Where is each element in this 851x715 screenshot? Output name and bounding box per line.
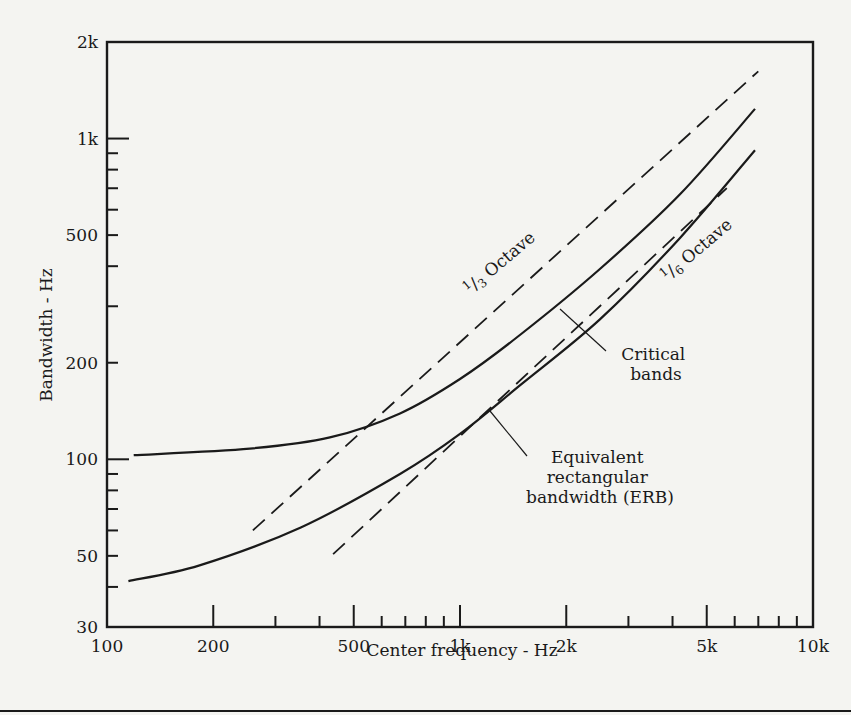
plot-frame <box>107 42 813 627</box>
y-tick-label: 500 <box>66 225 98 245</box>
annotation-erb: Equivalent rectangular bandwidth (ERB) <box>526 447 674 507</box>
y-tick-label: 50 <box>76 546 98 566</box>
x-tick-label: 200 <box>197 636 229 656</box>
x-tick-label: 500 <box>338 636 370 656</box>
x-tick-label: 100 <box>91 636 123 656</box>
x-tick-label: 2k <box>556 636 578 656</box>
axis-ticks <box>107 139 797 627</box>
y-tick-label: 2k <box>77 32 99 52</box>
y-tick-label: 30 <box>76 617 98 637</box>
axis-tick-labels: 1002005001k2k5k10k30501002005001k2k <box>66 32 830 656</box>
x-axis-label: Center frequency - Hz <box>366 640 557 660</box>
series-line <box>134 109 755 455</box>
y-tick-label: 200 <box>66 353 98 373</box>
svg-text:1/3 Octave: 1/3 Octave <box>459 226 540 299</box>
annotation-third-octave: 1/3 Octave <box>459 226 540 299</box>
x-tick-label: 5k <box>696 636 718 656</box>
y-tick-label: 1k <box>77 129 99 149</box>
y-tick-label: 100 <box>66 449 98 469</box>
series-line <box>253 71 758 530</box>
y-axis-label: Bandwidth - Hz <box>36 268 56 401</box>
x-tick-label: 10k <box>797 636 830 656</box>
critical-bands-leader <box>560 309 606 351</box>
erb-leader <box>490 411 527 456</box>
annotation-critical-bands: Critical bands <box>621 344 690 384</box>
chart: 1002005001k2k5k10k30501002005001k2k Cent… <box>0 0 851 715</box>
